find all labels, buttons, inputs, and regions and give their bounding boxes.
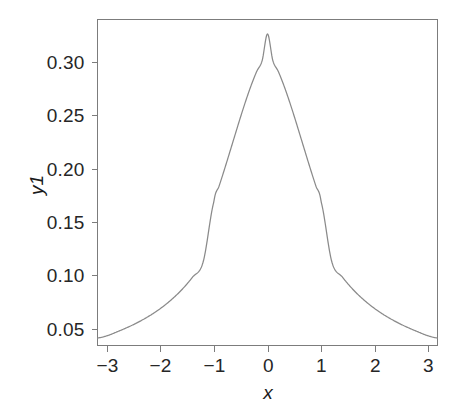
data-curve-y1 xyxy=(98,34,438,338)
y-axis-ticks xyxy=(92,63,98,330)
x-axis-title: x xyxy=(262,382,274,403)
y-axis-title: y1 xyxy=(26,175,47,197)
figure-container: 0.050.100.150.200.250.30 −3−2−10123 x y1 xyxy=(0,0,469,419)
x-tick-label: 0 xyxy=(263,355,274,376)
y-tick-label: 0.15 xyxy=(47,212,85,233)
x-tick-label: 3 xyxy=(423,355,434,376)
y-tick-label: 0.25 xyxy=(47,105,85,126)
x-axis-ticks xyxy=(108,346,429,352)
y-tick-label: 0.20 xyxy=(47,159,85,180)
x-tick-label: −3 xyxy=(96,355,118,376)
x-axis-tick-labels: −3−2−10123 xyxy=(96,355,433,376)
x-tick-label: 2 xyxy=(370,355,381,376)
chart-canvas: 0.050.100.150.200.250.30 −3−2−10123 x y1 xyxy=(0,0,469,419)
x-tick-label: −1 xyxy=(203,355,225,376)
x-tick-label: −2 xyxy=(149,355,171,376)
y-tick-label: 0.10 xyxy=(47,265,85,286)
x-tick-label: 1 xyxy=(316,355,327,376)
plot-frame xyxy=(98,20,438,346)
y-tick-label: 0.30 xyxy=(47,52,85,73)
y-tick-label: 0.05 xyxy=(47,319,85,340)
y-axis-tick-labels: 0.050.100.150.200.250.30 xyxy=(47,52,85,340)
